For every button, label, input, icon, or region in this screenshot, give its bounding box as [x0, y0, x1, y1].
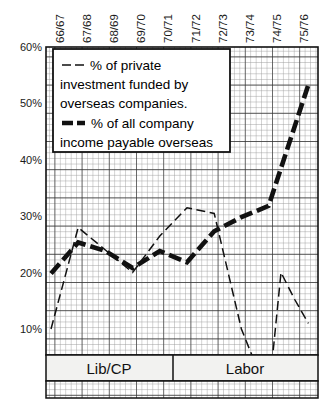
x-tick-label: 70/71: [162, 14, 174, 43]
chart-legend: % of private investment funded by overse…: [53, 49, 230, 152]
x-tick-label: 75/76: [298, 14, 310, 43]
legend-item-1-line-3: overseas companies.: [60, 96, 188, 111]
x-tick-label: 74/75: [271, 14, 283, 43]
y-tick-label: 20%: [20, 267, 42, 279]
government-bands: Lib/CP Labor: [46, 355, 318, 381]
legend-item-2-line-1: % of all company: [91, 116, 194, 131]
legend-item-1-line-2: investment funded by: [60, 77, 189, 92]
x-tick-label: 73/74: [244, 14, 256, 43]
x-tick-label: 71/72: [190, 14, 202, 43]
x-tick-label: 67/68: [81, 14, 93, 43]
legend-item-1-line-1: % of private: [90, 58, 161, 73]
line-chart: 60% 50% 40% 30% 20% 10% 66/67 67/68 68/6…: [0, 0, 330, 405]
bottom-grid-strip: [46, 381, 318, 398]
x-tick-label: 69/70: [135, 14, 147, 43]
x-tick-label: 72/73: [217, 14, 229, 43]
y-tick-label: 60%: [20, 41, 42, 53]
legend-item-2-line-2: income payable overseas: [60, 135, 213, 150]
band-label-libcp: Lib/CP: [86, 360, 131, 377]
y-tick-label: 10%: [20, 323, 42, 335]
y-tick-label: 30%: [20, 210, 42, 222]
x-tick-label: 68/69: [108, 14, 120, 43]
x-tick-label: 66/67: [54, 14, 66, 43]
band-label-labor: Labor: [226, 360, 264, 377]
y-tick-label: 50%: [20, 97, 42, 109]
y-tick-label: 40%: [20, 154, 42, 166]
chart-container: 60% 50% 40% 30% 20% 10% 66/67 67/68 68/6…: [0, 0, 330, 405]
